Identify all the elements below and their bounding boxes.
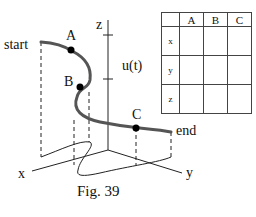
cell-z-b: [204, 85, 228, 114]
table-row-x: x: [162, 27, 252, 56]
cell-z-a: [180, 85, 204, 114]
table-corner-cell: [162, 13, 180, 27]
x-axis-label: x: [18, 167, 25, 181]
coordinate-table: A B C x y z: [161, 12, 252, 114]
start-label: start: [4, 38, 28, 52]
row-header-x: x: [162, 27, 180, 56]
cell-x-c: [228, 27, 252, 56]
cell-y-c: [228, 56, 252, 85]
function-label: u(t): [122, 59, 142, 73]
point-a-marker: [68, 47, 75, 54]
projection-curve: [41, 142, 171, 176]
z-axis-label: z: [96, 18, 102, 32]
point-b-marker: [77, 84, 84, 91]
row-header-z: z: [162, 85, 180, 114]
cell-x-b: [204, 27, 228, 56]
table-header-row: A B C: [162, 13, 252, 27]
table-row-y: y: [162, 56, 252, 85]
y-axis-label: y: [186, 166, 193, 180]
cell-z-c: [228, 85, 252, 114]
column-header-a: A: [180, 13, 204, 27]
figure-caption: Fig. 39: [77, 183, 120, 200]
main-curve: [41, 42, 171, 132]
column-header-c: C: [228, 13, 252, 27]
point-c-marker: [133, 125, 140, 132]
cell-y-b: [204, 56, 228, 85]
row-header-y: y: [162, 56, 180, 85]
x-axis: [32, 150, 108, 171]
table-row-z: z: [162, 85, 252, 114]
cell-y-a: [180, 56, 204, 85]
cell-x-a: [180, 27, 204, 56]
point-c-label: C: [132, 108, 141, 122]
point-b-label: B: [64, 75, 73, 89]
end-label: end: [176, 124, 196, 138]
point-a-label: A: [66, 29, 76, 43]
column-header-b: B: [204, 13, 228, 27]
